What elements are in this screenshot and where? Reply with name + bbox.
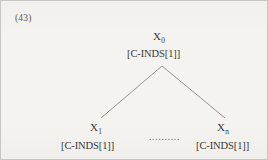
figure-canvas: (43) X0 [C-INDS[1]] X1 [C-INDS[1]] .....… — [0, 0, 268, 160]
left-branch-line — [101, 66, 162, 118]
left-subscript: 1 — [98, 127, 102, 136]
right-child-category: Xn — [217, 121, 229, 133]
root-category-text: X — [153, 30, 161, 42]
root-subscript: 0 — [161, 36, 165, 45]
right-category-text: X — [217, 121, 225, 133]
right-subscript: n — [225, 127, 229, 136]
right-child-features: [C-INDS[1]] — [196, 140, 249, 151]
left-child-category: X1 — [90, 121, 102, 133]
root-node-category: X0 — [153, 30, 165, 42]
left-category-text: X — [90, 121, 98, 133]
left-child-features: [C-INDS[1]] — [61, 140, 114, 151]
root-node-features: [C-INDS[1]] — [127, 48, 180, 59]
tree-branches — [1, 1, 268, 160]
children-ellipsis: .......... — [149, 132, 180, 142]
right-branch-line — [162, 66, 225, 118]
